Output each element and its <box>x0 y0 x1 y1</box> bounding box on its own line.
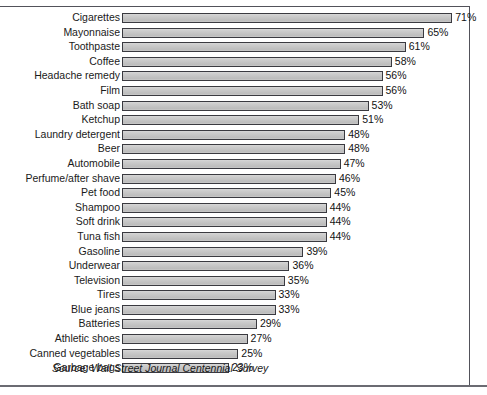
bar <box>122 174 336 184</box>
category-label: Athletic shoes <box>0 333 120 344</box>
bar-fill <box>122 247 303 257</box>
category-label: Film <box>0 85 120 96</box>
bar-fill <box>122 319 257 329</box>
bar-row: Headache remedy56% <box>0 70 487 85</box>
bar-value-label: 25% <box>238 348 262 359</box>
bar-value-label: 48% <box>345 143 369 154</box>
bar-value-label: 29% <box>257 318 281 329</box>
bar-row: Toothpaste61% <box>0 41 487 56</box>
category-label: Ketchup <box>0 114 120 125</box>
bar-row: Blue jeans33% <box>0 304 487 319</box>
bar-row: Perfume/after shave46% <box>0 173 487 188</box>
bar <box>122 261 289 271</box>
category-label: Shampoo <box>0 202 120 213</box>
bar-row: Automobile47% <box>0 158 487 173</box>
bar-fill <box>122 101 369 111</box>
bar-fill <box>122 57 392 67</box>
bar-fill <box>122 115 359 125</box>
category-label: Soft drink <box>0 216 120 227</box>
bar-row: Tuna fish44% <box>0 231 487 246</box>
bar-row: Canned vegetables25% <box>0 348 487 363</box>
bar <box>122 101 369 111</box>
bar-value-label: 51% <box>359 114 383 125</box>
category-label: Toothpaste <box>0 41 120 52</box>
bar-fill <box>122 86 383 96</box>
bar-value-label: 35% <box>285 275 309 286</box>
bar-row: Bath soap53% <box>0 100 487 115</box>
bar <box>122 144 345 154</box>
bar-fill <box>122 305 276 315</box>
bar-fill <box>122 261 289 271</box>
category-label: Blue jeans <box>0 304 120 315</box>
bar-fill <box>122 232 327 242</box>
bar-fill <box>122 13 452 23</box>
category-label: Tuna fish <box>0 231 120 242</box>
bar <box>122 232 327 242</box>
bar-row: Gasoline39% <box>0 246 487 261</box>
bar-value-label: 61% <box>406 41 430 52</box>
bar-fill <box>122 28 424 38</box>
bar-fill <box>122 159 341 169</box>
bar-fill <box>122 188 331 198</box>
bar-fill <box>122 144 345 154</box>
bar-value-label: 33% <box>276 289 300 300</box>
bar <box>122 349 238 359</box>
bar-value-label: 39% <box>303 246 327 257</box>
category-label: Perfume/after shave <box>0 173 120 184</box>
category-label: Automobile <box>0 158 120 169</box>
bar <box>122 159 341 169</box>
bar <box>122 71 383 81</box>
bar-value-label: 46% <box>336 173 360 184</box>
bar-value-label: 48% <box>345 129 369 140</box>
bar-value-label: 53% <box>369 100 393 111</box>
bar-fill <box>122 71 383 81</box>
category-label: Pet food <box>0 187 120 198</box>
category-label: Gasoline <box>0 246 120 257</box>
bar-value-label: 56% <box>383 70 407 81</box>
category-label: Cigarettes <box>0 12 120 23</box>
category-label: Bath soap <box>0 100 120 111</box>
bar-row: Batteries29% <box>0 318 487 333</box>
bar-fill <box>122 130 345 140</box>
bar-row: Shampoo44% <box>0 202 487 217</box>
bar-value-label: 36% <box>289 260 313 271</box>
bar-chart-plot-area: Cigarettes71%Mayonnaise65%Toothpaste61%C… <box>0 12 487 377</box>
bottom-divider-rule <box>0 385 487 387</box>
bar-value-label: 45% <box>331 187 355 198</box>
bar <box>122 86 383 96</box>
bar <box>122 42 406 52</box>
bar-row: Athletic shoes27% <box>0 333 487 348</box>
bar-fill <box>122 217 327 227</box>
bar <box>122 57 392 67</box>
bar-value-label: 44% <box>327 216 351 227</box>
category-label: Television <box>0 275 120 286</box>
bar <box>122 28 424 38</box>
bar-row: Laundry detergent48% <box>0 129 487 144</box>
bar <box>122 203 327 213</box>
bar <box>122 115 359 125</box>
category-label: Mayonnaise <box>0 27 120 38</box>
bar-value-label: 65% <box>424 27 448 38</box>
bar <box>122 188 331 198</box>
bar-row: Soft drink44% <box>0 216 487 231</box>
category-label: Canned vegetables <box>0 348 120 359</box>
bar <box>122 290 276 300</box>
bar <box>122 217 327 227</box>
bar-value-label: 27% <box>248 333 272 344</box>
bar-row: Cigarettes71% <box>0 12 487 27</box>
category-label: Beer <box>0 143 120 154</box>
bar-row: Television35% <box>0 275 487 290</box>
bar-fill <box>122 42 406 52</box>
bar-value-label: 47% <box>341 158 365 169</box>
bar-row: Pet food45% <box>0 187 487 202</box>
category-label: Tires <box>0 289 120 300</box>
category-label: Headache remedy <box>0 70 120 81</box>
bar-fill <box>122 334 248 344</box>
bar <box>122 305 276 315</box>
category-label: Underwear <box>0 260 120 271</box>
bar <box>122 334 248 344</box>
bar-value-label: 71% <box>452 12 476 23</box>
bar-row: Tires33% <box>0 289 487 304</box>
bar <box>122 130 345 140</box>
bar-value-label: 58% <box>392 56 416 67</box>
